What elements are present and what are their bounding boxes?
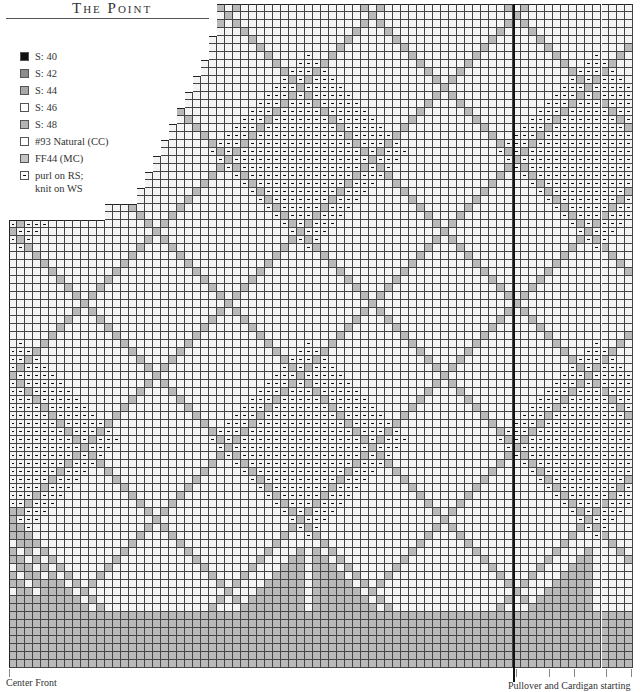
cc-stitch <box>201 236 209 244</box>
mc-stitch <box>41 612 49 620</box>
cc-stitch <box>521 68 529 76</box>
mc-stitch <box>305 620 313 628</box>
cc-stitch <box>113 284 121 292</box>
cc-stitch <box>473 244 481 252</box>
cc-stitch <box>105 556 113 564</box>
cc-stitch <box>289 532 297 540</box>
cc-stitch <box>417 116 425 124</box>
mc-stitch <box>273 604 281 612</box>
cc-stitch <box>129 508 137 516</box>
mc-stitch <box>65 652 73 660</box>
cc-stitch <box>401 284 409 292</box>
purl-stitch <box>273 124 281 132</box>
cc-stitch <box>313 4 321 12</box>
mc-stitch <box>601 612 609 620</box>
cc-stitch <box>193 524 201 532</box>
mc-stitch <box>233 636 241 644</box>
purl-stitch <box>33 500 41 508</box>
cc-stitch <box>425 300 433 308</box>
purl-stitch <box>521 412 529 420</box>
purl-stitch <box>617 420 625 428</box>
cc-stitch <box>161 428 169 436</box>
purl-stitch <box>497 436 505 444</box>
cc-stitch <box>201 396 209 404</box>
cc-stitch <box>497 180 505 188</box>
purl-stitch <box>601 156 609 164</box>
cc-stitch <box>545 548 553 556</box>
purl-stitch <box>369 172 377 180</box>
mc-stitch <box>521 620 529 628</box>
cc-stitch <box>385 388 393 396</box>
purl-stitch <box>337 500 345 508</box>
cc-stitch <box>393 540 401 548</box>
cc-stitch <box>81 324 89 332</box>
cc-stitch <box>449 388 457 396</box>
cc-stitch <box>225 460 233 468</box>
cc-stitch <box>105 348 113 356</box>
cc-stitch <box>153 212 161 220</box>
mc-stitch <box>369 636 377 644</box>
mc-stitch <box>385 572 393 580</box>
cc-stitch <box>529 268 537 276</box>
cc-stitch <box>433 84 441 92</box>
cc-stitch <box>225 516 233 524</box>
cc-stitch <box>433 556 441 564</box>
cc-stitch <box>169 460 177 468</box>
cc-stitch <box>65 364 73 372</box>
cc-stitch <box>73 588 81 596</box>
cc-stitch <box>225 468 233 476</box>
cc-stitch <box>433 20 441 28</box>
cc-stitch <box>529 356 537 364</box>
cc-stitch <box>593 332 601 340</box>
cc-stitch <box>521 276 529 284</box>
cc-stitch <box>505 324 513 332</box>
cc-stitch <box>137 508 145 516</box>
cc-stitch <box>377 196 385 204</box>
mc-stitch <box>265 548 273 556</box>
cc-stitch <box>433 172 441 180</box>
cc-stitch <box>425 412 433 420</box>
mc-stitch <box>225 628 233 636</box>
mc-stitch <box>249 660 257 668</box>
cc-stitch <box>521 588 529 596</box>
purl-stitch <box>601 148 609 156</box>
cc-stitch <box>209 388 217 396</box>
purl-stitch <box>249 188 257 196</box>
purl-stitch <box>33 388 41 396</box>
purl-stitch <box>617 460 625 468</box>
mc-stitch <box>625 660 633 668</box>
mc-stitch <box>409 404 417 412</box>
purl-stitch <box>321 436 329 444</box>
cc-stitch <box>393 76 401 84</box>
mc-stitch <box>25 604 33 612</box>
cc-stitch <box>281 44 289 52</box>
cc-stitch <box>137 412 145 420</box>
cc-stitch <box>49 516 57 524</box>
cc-stitch <box>257 260 265 268</box>
cc-stitch <box>225 532 233 540</box>
mc-stitch <box>625 652 633 660</box>
cc-stitch <box>337 516 345 524</box>
mc-stitch <box>321 644 329 652</box>
cc-stitch <box>337 324 345 332</box>
purl-stitch <box>561 84 569 92</box>
cc-stitch <box>97 404 105 412</box>
mc-stitch <box>481 612 489 620</box>
cc-stitch <box>201 148 209 156</box>
cc-stitch <box>433 60 441 68</box>
cc-stitch <box>353 12 361 20</box>
purl-stitch <box>321 468 329 476</box>
mc-stitch <box>409 644 417 652</box>
mc-stitch <box>161 660 169 668</box>
mc-stitch <box>177 612 185 620</box>
cc-stitch <box>217 220 225 228</box>
cc-stitch <box>481 404 489 412</box>
mc-stitch <box>177 348 185 356</box>
cc-stitch <box>241 4 249 12</box>
cc-stitch <box>129 364 137 372</box>
cc-stitch <box>473 356 481 364</box>
purl-stitch <box>553 380 561 388</box>
purl-stitch <box>257 388 265 396</box>
mc-stitch <box>449 628 457 636</box>
purl-stitch <box>529 180 537 188</box>
